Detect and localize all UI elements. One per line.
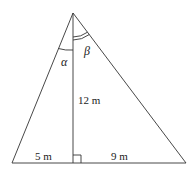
beta-label: β [83, 44, 90, 58]
beta-arc-inner [73, 32, 88, 37]
alpha-arc [58, 49, 73, 51]
alpha-label: α [61, 55, 68, 69]
left-side [12, 13, 73, 163]
left-base-label: 5 m [35, 150, 52, 162]
right-angle-marker [73, 155, 81, 163]
right-base-label: 9 m [111, 150, 128, 162]
right-side [73, 13, 186, 163]
triangle-diagram: α β 12 m 5 m 9 m [0, 0, 193, 173]
height-label: 12 m [78, 94, 101, 106]
